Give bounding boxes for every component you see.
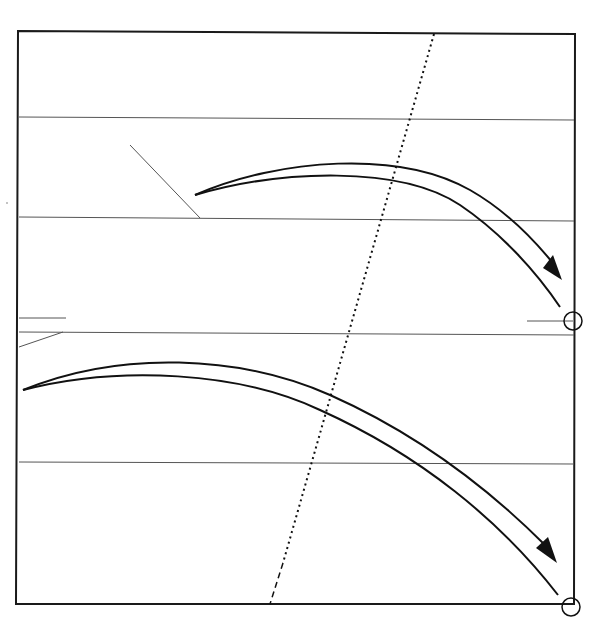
left-diagonal-leader: [19, 332, 63, 347]
stray-dot: [6, 202, 8, 204]
horizontal-line-4: [19, 462, 574, 464]
horizontal-line-3: [19, 332, 574, 335]
diagram-canvas: [0, 0, 591, 633]
upper-curved-arrow: [195, 163, 562, 307]
slanted-dotted-line: [283, 34, 434, 563]
horizontal-line-2: [19, 217, 574, 221]
upper-diagonal-leader: [130, 145, 200, 218]
upper-arrowhead-icon: [543, 255, 562, 280]
lower-arrow-outer-stroke: [23, 362, 545, 545]
circle-marker-bottom-right: [562, 598, 580, 616]
slanted-dashed-end: [270, 563, 283, 604]
upper-arrow-inner-stroke: [195, 176, 560, 307]
lower-curved-arrow: [23, 362, 558, 595]
horizontal-line-1: [19, 117, 574, 120]
lower-arrowhead-icon: [536, 537, 557, 563]
